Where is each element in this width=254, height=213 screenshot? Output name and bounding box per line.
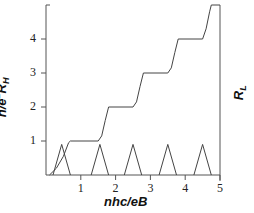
- y-tick-label: 4: [30, 32, 36, 44]
- resistance-peak: [124, 144, 141, 175]
- x-tick-label: 3: [147, 182, 153, 194]
- right-axis-label: RL: [231, 85, 249, 100]
- x-tick-label: 4: [182, 182, 188, 194]
- x-tick-label: 1: [78, 182, 84, 194]
- y-tick-label: 1: [30, 134, 36, 146]
- y-tick-label: 2: [30, 100, 36, 112]
- y-axis-label: h/e2RH: [0, 78, 11, 118]
- resistance-peak: [91, 144, 108, 175]
- y-tick-label: 3: [30, 66, 36, 78]
- longitudinal-resistance-peaks: [53, 144, 211, 175]
- resistance-peak: [194, 144, 211, 175]
- quantum-hall-chart: [0, 0, 254, 213]
- x-tick-label: 2: [113, 182, 119, 194]
- resistance-peak: [159, 144, 176, 175]
- x-tick-label: 5: [217, 182, 223, 194]
- x-axis-label: nhc/eB: [104, 194, 147, 209]
